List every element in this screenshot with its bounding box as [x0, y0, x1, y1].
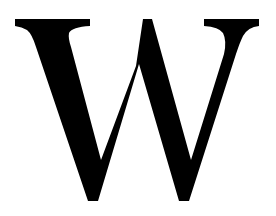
- letter-w-shape: [15, 19, 259, 201]
- letter-w-glyph: [0, 0, 276, 216]
- letter-canvas: W: [0, 0, 276, 216]
